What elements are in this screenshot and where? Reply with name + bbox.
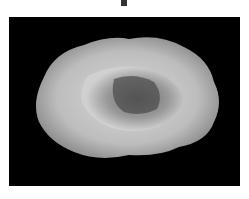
geode-illustration [9, 17, 240, 186]
geode-photo [9, 17, 240, 186]
top-mark [121, 0, 127, 6]
